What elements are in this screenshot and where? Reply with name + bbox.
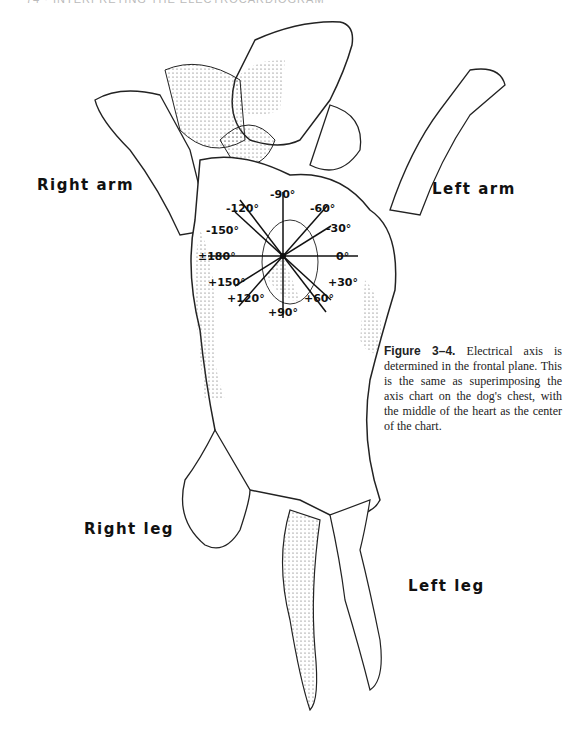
figure-caption: Figure 3–4. Electrical axis is determine… (384, 344, 562, 434)
svg-text:±180°: ±180° (198, 250, 236, 263)
label-left-leg: Left leg (408, 577, 485, 595)
label-right-leg: Right leg (84, 520, 174, 538)
svg-text:+30°: +30° (328, 276, 358, 289)
figure-number: Figure 3–4. (384, 344, 455, 358)
svg-text:-90°: -90° (270, 188, 295, 201)
svg-text:+60°: +60° (304, 292, 334, 305)
svg-text:+150°: +150° (208, 276, 246, 289)
svg-text:+120°: +120° (227, 292, 265, 305)
label-left-arm: Left arm (432, 180, 516, 198)
svg-text:-60°: -60° (310, 202, 335, 215)
svg-text:+90°: +90° (268, 306, 298, 319)
svg-text:-150°: -150° (206, 224, 239, 237)
svg-text:-30°: -30° (326, 222, 351, 235)
label-right-arm: Right arm (37, 176, 134, 194)
svg-text:-120°: -120° (226, 202, 259, 215)
svg-text:0°: 0° (336, 250, 349, 263)
